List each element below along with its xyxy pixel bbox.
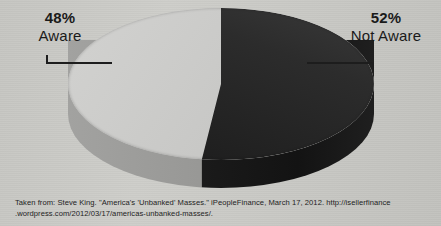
- pie-label-not-aware-percent: 52%: [336, 10, 436, 27]
- leader-line-not-aware: [307, 62, 374, 64]
- leader-tick-aware: [46, 55, 48, 64]
- pie-chart-graphic: [68, 8, 374, 188]
- pie-label-aware-name: Aware: [14, 28, 106, 45]
- leader-line-aware: [46, 62, 112, 64]
- pie-top-face: [68, 8, 374, 160]
- figure-caption-line-1: Taken from: Steve King. "America's 'Unba…: [15, 197, 433, 208]
- pie-label-not-aware: 52% Not Aware: [336, 10, 436, 45]
- leader-tick-not-aware: [372, 62, 374, 71]
- figure-caption-line-2: .wordpress.com/2012/03/17/americas-unban…: [15, 208, 433, 219]
- pie-chart-figure: 48% Aware 52% Not Aware Taken from: Stev…: [0, 0, 441, 226]
- pie-label-not-aware-name: Not Aware: [336, 28, 436, 45]
- pie-label-aware-percent: 48%: [14, 10, 106, 27]
- pie-label-aware: 48% Aware: [14, 10, 106, 45]
- figure-caption: Taken from: Steve King. "America's 'Unba…: [15, 197, 433, 219]
